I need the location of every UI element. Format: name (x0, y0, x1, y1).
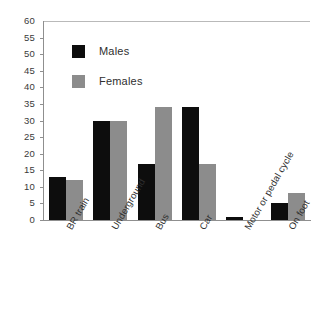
bar-males-5 (271, 203, 288, 220)
chart-legend: MalesFemales (72, 40, 143, 100)
y-tick-label: 30 (24, 114, 35, 127)
y-tick-label: 5 (30, 196, 35, 209)
legend-item-males: Males (72, 40, 143, 62)
y-tick-label: 25 (24, 130, 35, 143)
bar-females-3 (199, 164, 216, 220)
legend-label: Males (99, 45, 129, 57)
y-tick-label: 20 (24, 147, 35, 160)
y-tick-label: 15 (24, 163, 35, 176)
bar-males-3 (182, 107, 199, 220)
y-tick-label: 55 (24, 31, 35, 44)
y-tick-label: 0 (30, 213, 35, 226)
bar-males-4 (226, 217, 243, 220)
y-tick-label: 60 (24, 14, 35, 27)
bar-females-2 (155, 107, 172, 220)
y-tick-label: 35 (24, 97, 35, 110)
bar-males-0 (49, 177, 66, 220)
bar-chart: 051015202530354045505560 BR trainUndergr… (0, 0, 323, 334)
legend-swatch-icon (72, 75, 85, 88)
x-axis-line (43, 220, 311, 221)
legend-label: Females (99, 75, 143, 87)
y-tick-label: 10 (24, 180, 35, 193)
y-tick-label: 50 (24, 47, 35, 60)
legend-swatch-icon (72, 45, 85, 58)
bar-group (221, 22, 265, 220)
y-tick-label: 45 (24, 64, 35, 77)
bar-males-1 (93, 121, 110, 221)
bar-group (177, 22, 221, 220)
legend-item-females: Females (72, 70, 143, 92)
y-tick-mark (40, 220, 44, 221)
y-tick-label: 40 (24, 80, 35, 93)
